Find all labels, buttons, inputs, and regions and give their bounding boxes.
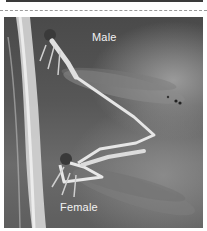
damselfly-illustration: [4, 17, 203, 228]
female-label: Female: [60, 201, 98, 213]
dashed-divider: [0, 10, 207, 11]
male-label: Male: [92, 31, 117, 43]
top-strip: [6, 0, 203, 2]
damselfly-photo: Male Female: [4, 17, 203, 228]
